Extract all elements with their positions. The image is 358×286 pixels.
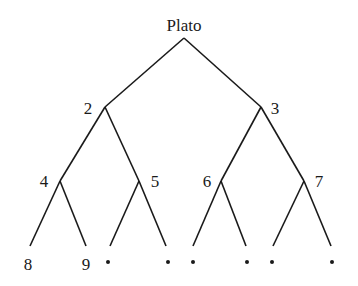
edge-root-3: [184, 38, 261, 107]
leaf-dot: [330, 260, 334, 264]
binary-tree-diagram: Plato 2 3 4 5 6 7 8 9: [0, 0, 358, 286]
leaf-dot: [245, 260, 249, 264]
node-label-4: 4: [40, 172, 49, 191]
node-label-9: 9: [82, 255, 91, 274]
edge-6-right: [221, 181, 246, 246]
edge-2-4: [60, 107, 105, 181]
node-label-8: 8: [24, 255, 33, 274]
leaf-dot: [166, 260, 170, 264]
node-label-6: 6: [203, 172, 212, 191]
edge-4-9: [60, 181, 86, 246]
edge-2-5: [105, 107, 139, 181]
tree-edges: [30, 38, 331, 246]
node-label-2: 2: [84, 99, 93, 118]
edge-3-7: [261, 107, 304, 181]
edge-3-6: [221, 107, 261, 181]
node-label-5: 5: [151, 172, 160, 191]
node-label-7: 7: [315, 172, 324, 191]
leaf-dot: [270, 260, 274, 264]
leaf-dot: [106, 260, 110, 264]
root-label: Plato: [167, 16, 202, 35]
edge-5-left: [110, 181, 139, 246]
node-label-3: 3: [271, 99, 280, 118]
leaf-dots: [106, 260, 334, 264]
edge-root-2: [105, 38, 184, 107]
leaf-dot: [191, 260, 195, 264]
edge-7-left: [273, 181, 304, 246]
